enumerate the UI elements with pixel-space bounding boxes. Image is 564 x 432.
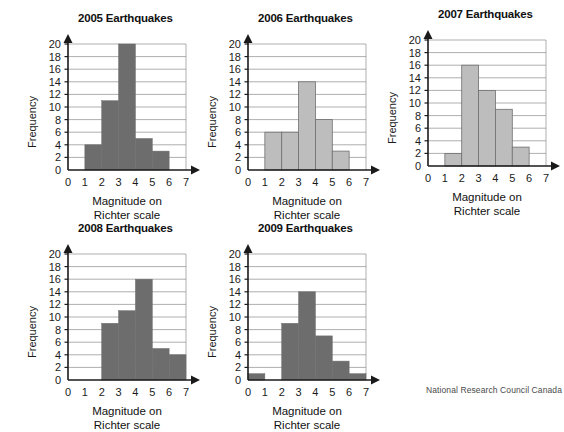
x-tick-label: 1 [262,176,268,188]
x-tick-label: 4 [312,176,318,188]
y-tick-label: 16 [409,59,421,71]
x-axis-caption: Magnitude onRichter scale [230,194,384,222]
x-tick-label: 4 [312,386,318,398]
y-tick-label: 18 [49,51,61,63]
x-axis-caption-line1: Magnitude on [50,404,204,418]
histogram-bar [332,361,349,380]
x-axis-caption: Magnitude onRichter scale [50,194,204,222]
y-tick-label: 6 [55,336,61,348]
x-tick-label: 6 [346,176,352,188]
y-tick-label: 20 [49,248,61,260]
y-tick-label: 0 [55,374,61,386]
chart-2008: 2008 EarthquakesFrequency024681012141618… [18,222,203,431]
chart-title: 2006 Earthquakes [258,12,353,24]
histogram-bar [315,336,332,380]
y-tick-label: 0 [235,164,241,176]
x-tick-label: 7 [543,172,549,184]
y-tick-label: 6 [235,126,241,138]
x-tick-label: 2 [459,172,465,184]
y-tick-label: 12 [229,298,241,310]
histogram-bar [282,132,299,170]
y-tick-label: 6 [55,126,61,138]
chart-2006: 2006 EarthquakesFrequency024681012141618… [198,12,383,221]
y-tick-label: 14 [229,76,241,88]
plot-area: 0246810121416182001234567 [198,236,383,411]
x-tick-label: 3 [296,176,302,188]
x-tick-label: 1 [82,176,88,188]
x-axis-caption-line1: Magnitude on [410,190,564,204]
y-tick-label: 6 [235,336,241,348]
y-tick-label: 6 [415,122,421,134]
histogram-bar [265,132,282,170]
x-axis-caption-line2: Richter scale [230,418,384,432]
y-tick-label: 16 [229,63,241,75]
x-axis-caption-line2: Richter scale [230,208,384,222]
histogram-bar [299,292,316,380]
chart-title: 2009 Earthquakes [258,222,353,234]
histogram-bar [248,374,265,380]
x-tick-label: 0 [65,176,71,188]
y-tick-label: 8 [235,324,241,336]
histogram-bar [135,139,152,171]
histogram-bar [445,153,462,166]
histogram-bar [512,147,529,166]
histogram-bar [299,82,316,170]
y-tick-label: 10 [229,101,241,113]
histogram-bar [135,279,152,380]
y-tick-label: 18 [229,51,241,63]
x-axis-caption-line1: Magnitude on [50,194,204,208]
y-tick-label: 10 [229,311,241,323]
x-tick-label: 7 [363,176,369,188]
histogram-bar [315,120,332,170]
y-tick-label: 20 [409,34,421,46]
x-axis-caption-line1: Magnitude on [230,194,384,208]
x-tick-label: 1 [262,386,268,398]
histogram-bar [102,323,119,380]
y-tick-label: 20 [229,248,241,260]
y-tick-label: 2 [55,361,61,373]
x-tick-label: 5 [329,386,335,398]
plot-area: 0246810121416182001234567 [378,22,563,197]
histogram-bar [119,311,136,380]
x-tick-label: 4 [492,172,498,184]
x-axis-arrow-icon [551,162,560,171]
histogram-bar [462,65,479,166]
y-tick-label: 4 [415,135,421,147]
x-axis-caption-line2: Richter scale [50,418,204,432]
chart-title: 2005 Earthquakes [78,12,173,24]
chart-title: 2008 Earthquakes [78,222,173,234]
x-axis-caption-line1: Magnitude on [230,404,384,418]
histogram-bar [169,355,186,380]
plot-area: 0246810121416182001234567 [18,26,203,201]
x-tick-label: 0 [245,386,251,398]
y-tick-label: 16 [229,273,241,285]
y-tick-label: 16 [49,63,61,75]
y-tick-label: 16 [49,273,61,285]
histogram-bar [152,151,169,170]
y-axis-arrow-icon [64,244,73,253]
x-tick-label: 5 [509,172,515,184]
x-tick-label: 1 [442,172,448,184]
x-tick-label: 3 [296,386,302,398]
x-axis-caption-line2: Richter scale [410,204,564,218]
histogram-bar [85,145,102,170]
histogram-bar [282,323,299,380]
y-tick-label: 12 [229,88,241,100]
x-axis-caption: Magnitude onRichter scale [410,190,564,218]
chart-2009: 2009 EarthquakesFrequency024681012141618… [198,222,383,431]
y-tick-label: 2 [55,151,61,163]
x-tick-label: 0 [425,172,431,184]
y-tick-label: 4 [235,349,241,361]
y-tick-label: 14 [409,72,421,84]
y-tick-label: 8 [235,114,241,126]
x-tick-label: 0 [245,176,251,188]
y-tick-label: 14 [229,286,241,298]
x-tick-label: 0 [65,386,71,398]
x-axis-arrow-icon [371,376,380,385]
y-tick-label: 2 [235,151,241,163]
x-tick-label: 3 [476,172,482,184]
x-tick-label: 6 [346,386,352,398]
y-tick-label: 10 [49,101,61,113]
x-tick-label: 6 [526,172,532,184]
histogram-bar [349,374,366,380]
